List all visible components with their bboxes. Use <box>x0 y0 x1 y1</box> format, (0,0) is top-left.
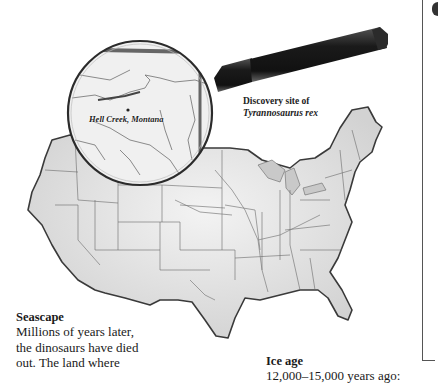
hell-creek-marker <box>126 108 129 111</box>
iceage-heading: Ice age <box>266 354 441 368</box>
magnifier-handle <box>214 27 388 92</box>
seascape-line-3: out. The land where <box>16 355 206 371</box>
iceage-line-1: 12,000–15,000 years ago: <box>266 368 441 383</box>
discovery-caption: Discovery site of Tyrannosaurus rex <box>243 96 318 119</box>
magnifier-lens <box>68 41 212 185</box>
caption-line-2: Tyrannosaurus rex <box>243 108 318 120</box>
adjacent-panel-corner <box>432 2 438 16</box>
seascape-section: Seascape Millions of years later, the di… <box>16 310 206 371</box>
adjacent-panel-border <box>422 0 435 361</box>
seascape-line-2: the dinosaurs have died <box>16 340 206 356</box>
iceage-section: Ice age 12,000–15,000 years ago: <box>266 354 441 383</box>
hell-creek-label: Hell Creek, Montana <box>89 114 163 124</box>
seascape-line-1: Millions of years later, <box>16 324 206 340</box>
caption-line-1: Discovery site of <box>243 96 318 108</box>
seascape-heading: Seascape <box>16 310 206 324</box>
